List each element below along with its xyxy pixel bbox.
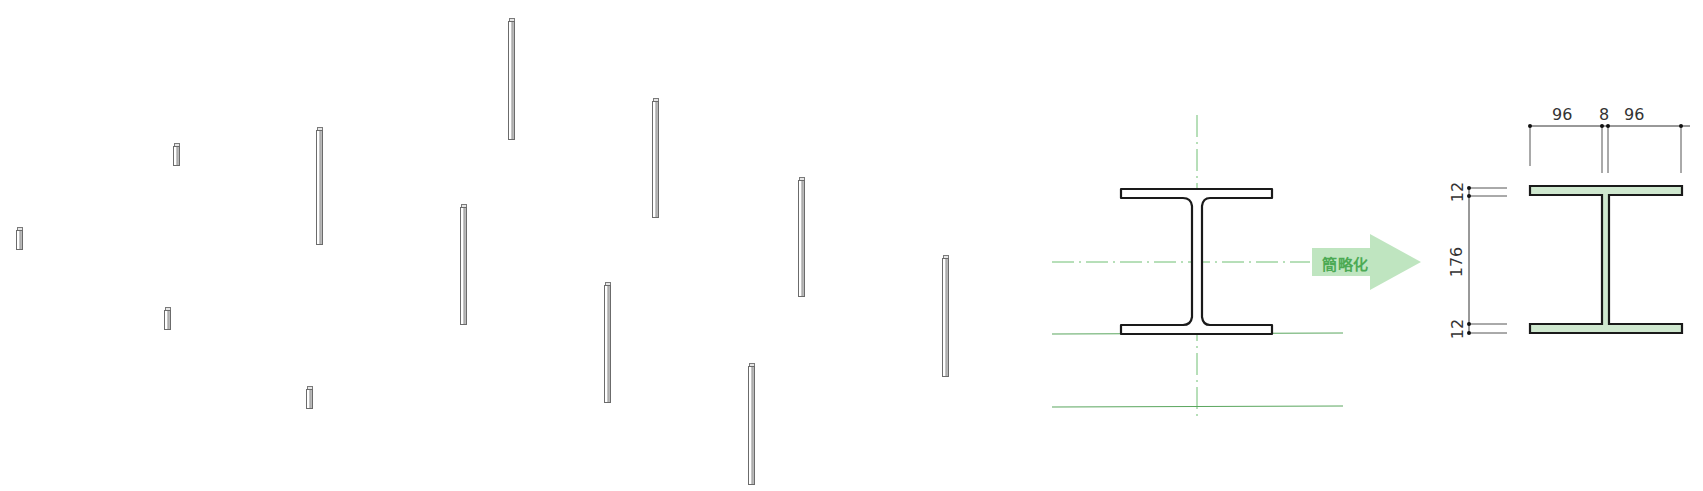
dim-bottom-flange-thickness: 12 xyxy=(1450,319,1466,339)
dim-web-thickness: 8 xyxy=(1599,107,1609,123)
original-section-group xyxy=(1052,115,1343,420)
diagram-canvas: 簡略化 96 8 96 12 176 12 xyxy=(0,0,1703,491)
simplified-section-group xyxy=(1467,124,1690,335)
dim-flange-right: 96 xyxy=(1624,107,1644,123)
dim-dot xyxy=(1467,322,1471,326)
dim-dot xyxy=(1606,124,1610,128)
dim-dot xyxy=(1467,186,1471,190)
dim-flange-left: 96 xyxy=(1552,107,1572,123)
grid-line-lower xyxy=(1052,406,1343,407)
dim-web-height: 176 xyxy=(1449,247,1465,278)
dim-dot xyxy=(1467,331,1471,335)
dim-dot xyxy=(1467,194,1471,198)
dim-dot xyxy=(1679,124,1683,128)
simplify-label: 簡略化 xyxy=(1322,253,1369,274)
dim-dot xyxy=(1528,124,1532,128)
section-drawings xyxy=(0,0,1703,491)
dim-top-flange-thickness: 12 xyxy=(1450,182,1466,202)
h-section-simplified xyxy=(1530,186,1682,333)
dim-dot xyxy=(1600,124,1604,128)
